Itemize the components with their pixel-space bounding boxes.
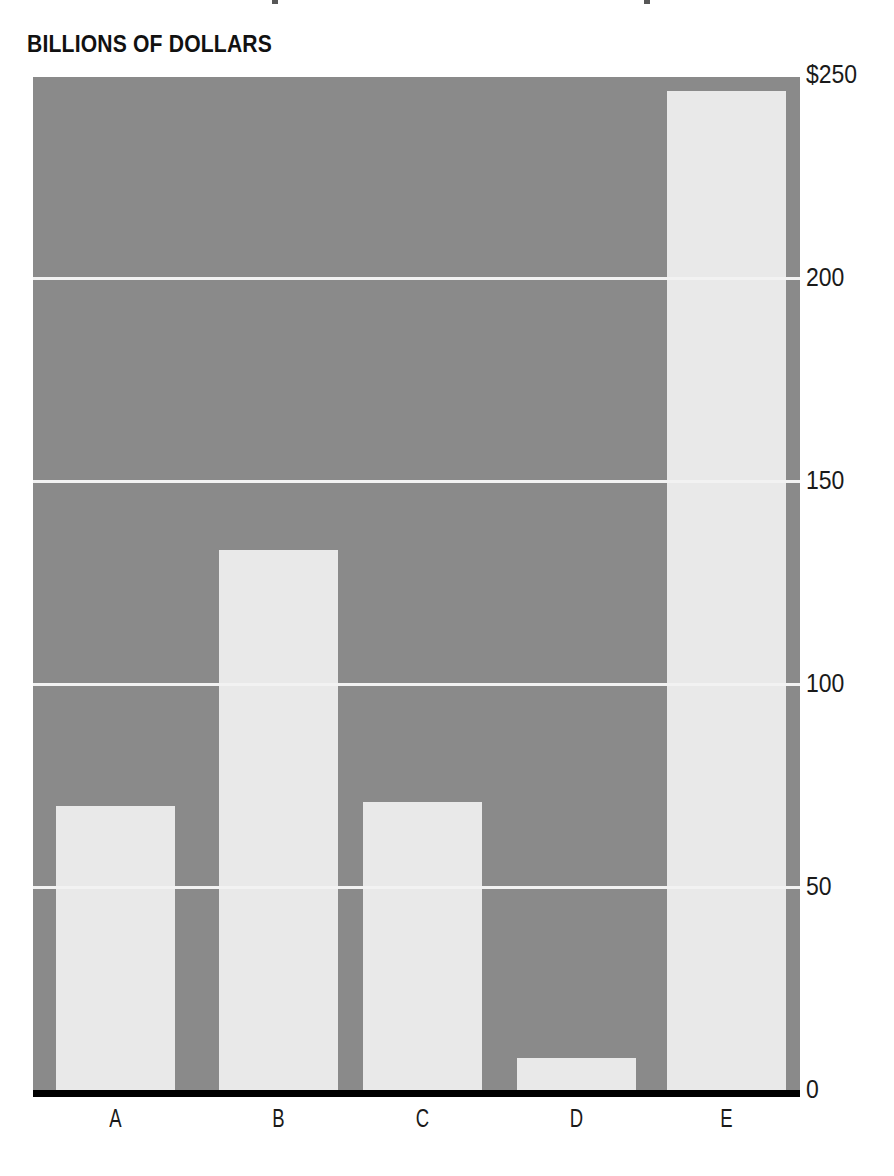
x-tick-label-b: B: [234, 1104, 322, 1133]
x-tick-label-a: A: [71, 1104, 159, 1133]
gridline-200: [33, 277, 800, 280]
bar-b[interactable]: [219, 550, 338, 1090]
gridline-100: [33, 683, 800, 686]
bar-d[interactable]: [517, 1058, 636, 1090]
chart-title: BILLIONS OF DOLLARS: [27, 30, 272, 58]
gridline-50: [33, 886, 800, 889]
y-tick-label-150: 150: [806, 466, 887, 495]
bars-layer: [33, 77, 800, 1090]
bar-c[interactable]: [363, 802, 482, 1090]
plot-area: [33, 77, 800, 1090]
x-tick-label-e: E: [682, 1104, 770, 1133]
chart-page: BILLIONS OF DOLLARS 050100150200$250 ABC…: [0, 0, 894, 1176]
bar-e[interactable]: [667, 91, 786, 1090]
scan-artifact-right: [644, 0, 650, 4]
y-tick-label-250: $250: [806, 60, 887, 89]
gridline-150: [33, 480, 800, 483]
x-axis: ABCDE: [33, 1104, 800, 1154]
y-tick-label-50: 50: [806, 872, 887, 901]
scan-artifact-left: [272, 0, 278, 4]
y-tick-label-0: 0: [806, 1075, 887, 1104]
y-tick-label-100: 100: [806, 669, 887, 698]
y-tick-label-200: 200: [806, 263, 887, 292]
x-tick-label-d: D: [532, 1104, 620, 1133]
axis-baseline: [33, 1090, 800, 1097]
x-tick-label-c: C: [378, 1104, 466, 1133]
y-axis: 050100150200$250: [806, 0, 894, 1176]
bar-a[interactable]: [56, 806, 175, 1090]
